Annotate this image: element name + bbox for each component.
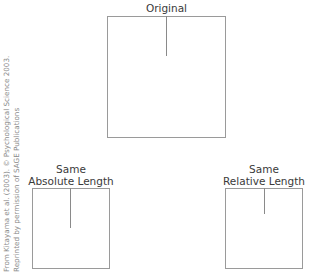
relative-label-line1: Same [214, 163, 314, 175]
absolute-length-frame [32, 188, 110, 269]
absolute-length-line [70, 188, 71, 228]
figure-credit: From Kitayama et al. (2003). © Psycholog… [2, 16, 26, 272]
original-label: Original [107, 2, 226, 14]
absolute-label-line2: Absolute Length [22, 175, 120, 187]
absolute-label-line1: Same [22, 163, 120, 175]
original-line [166, 16, 167, 56]
relative-length-line [264, 188, 265, 214]
credit-line2: Reprinted by permission of SAGE Publicat… [12, 16, 22, 272]
relative-length-label: Same Relative Length [214, 163, 314, 187]
absolute-length-label: Same Absolute Length [22, 163, 120, 187]
relative-label-line2: Relative Length [214, 175, 314, 187]
credit-line1: From Kitayama et al. (2003). © Psycholog… [2, 16, 12, 272]
